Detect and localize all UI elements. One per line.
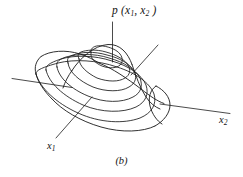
x2-axis-label-subscript: 2 [224, 118, 228, 127]
x2-axis-label: x2 [219, 115, 227, 126]
figure-container: p (x1, x2 ) x1 x2 (b) [0, 0, 243, 177]
density-surface-drawing [0, 0, 243, 177]
x1-axis-label: x1 [47, 141, 55, 152]
contour-ring-6 [36, 61, 155, 122]
vertical-axis-label-close-paren: ) [149, 4, 156, 16]
x1-axis-back-arm [131, 45, 158, 75]
surface-right-fold-inner [149, 86, 162, 124]
vertical-axis-label-open-paren: ( [118, 4, 125, 16]
contour-rings-group [36, 46, 155, 122]
x1-axis-front-arm [56, 97, 92, 138]
contour-ring-4 [57, 55, 142, 102]
surface-base-front-boundary [52, 99, 155, 131]
surface-left-flank [63, 71, 72, 89]
surface-peak-ridge [72, 44, 132, 70]
surface-outline-group [35, 44, 170, 131]
x2-axis-right-arm [160, 104, 230, 114]
figure-caption: (b) [0, 155, 243, 166]
surface-right-flank [132, 65, 160, 110]
x1-axis-label-subscript: 1 [52, 144, 56, 153]
vertical-axis-label: p (x1, x2 ) [112, 5, 156, 17]
